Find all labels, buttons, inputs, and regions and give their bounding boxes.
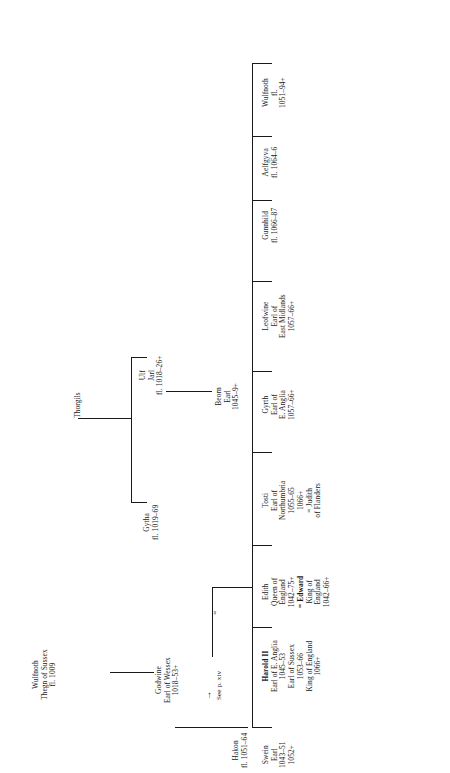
node-aelfgyva-line-1: fl. 1064–6 [271, 147, 280, 178]
connector-stub-tosti [252, 452, 272, 453]
node-edith: Edith Queen of England 1042–75+ = Edward… [262, 576, 332, 608]
connector-stub-swein [252, 727, 272, 728]
connector-sibling-spine [252, 63, 253, 728]
node-wulfnoth-son: Wulfnoth fl. 1051–94+ [262, 77, 288, 108]
node-wulfnoth-thegn: Wulfnoth Thegn of Sussex fl. 1009 [32, 649, 58, 700]
node-wulfnoth-thegn-line-2: fl. 1009 [49, 649, 58, 700]
node-hakon-line-1: fl. 1051–64 [241, 733, 250, 768]
node-edith-line-7: 1042–66+ [323, 576, 332, 608]
connector-stub-aelfgyva [252, 136, 272, 137]
node-gunnhild-line-1: fl. 1066–87 [271, 208, 280, 243]
marriage-symbol-godwine-gytha: = [211, 610, 220, 615]
connector-thorgils-stem [78, 418, 132, 419]
connector-marriage-to-children [212, 587, 252, 588]
node-wulfnoth-son-line-2: 1051–94+ [279, 77, 288, 108]
connector-stub-edith [252, 545, 272, 546]
node-leofwine: Leofwine Earl of East Midlands 1057–66+ [262, 294, 297, 338]
connector-harold-to-hakon [247, 727, 248, 728]
cross-reference-label: See p. xiv [215, 671, 223, 700]
node-gunnhild: Gunnhild fl. 1066–87 [262, 208, 279, 243]
node-harold: Harold II Earl of E. Anglia 1045–53 Earl… [262, 640, 323, 692]
node-godwine-line-2: 1018–53+ [172, 657, 181, 703]
node-leofwine-line-3: 1057–66+ [288, 294, 297, 338]
connector-stub-wulfnoth-son [252, 63, 272, 64]
node-swein-line-3: 1052+ [288, 741, 297, 768]
node-swein: Swein Earl 1043–51 1052+ [262, 741, 297, 768]
node-godwine: Godwine Earl of Wessex 1018–53+ [155, 657, 181, 703]
connector-ulf-to-beorn [166, 391, 212, 392]
connector-stub-harold [252, 627, 272, 628]
node-beorn-line-2: 1045–9+ [232, 383, 241, 410]
node-beorn: Beorn Earl 1045–9+ [215, 383, 241, 410]
connector-stub-gyrth [252, 371, 272, 372]
genealogy-chart: Thorgils Wulfnoth Thegn of Sussex fl. 10… [0, 0, 450, 773]
node-gyrth-line-3: 1057–66+ [288, 389, 297, 420]
cross-reference-see-page: See p. xiv [215, 671, 223, 700]
connector-stub-leofwine [252, 281, 272, 282]
node-hakon: Hakon fl. 1051–64 [232, 733, 249, 768]
connector-wulfnoth-to-godwine [110, 672, 154, 673]
connector-stub-gunnhild [252, 200, 272, 201]
node-harold-line-6: 1066+ [314, 640, 323, 692]
connector-hakon-line [175, 727, 247, 728]
node-ulf-line-2: fl. 1018–26+ [156, 356, 165, 395]
connector-thorgils-bracket [131, 357, 132, 503]
connector-to-gytha [131, 502, 147, 503]
connector-marriage-spine [212, 587, 213, 657]
node-tosti: Tosti Earl of Northumbria 1055–65 1066+ … [262, 481, 323, 520]
node-thorgils: Thorgils [74, 392, 83, 418]
node-tosti-line-6: of Flanders [314, 481, 323, 520]
arrow-icon: → [203, 691, 213, 700]
node-aelfgyva: Aelfgyva fl. 1064–6 [262, 147, 279, 178]
node-gytha-line-1: fl. 1019–69 [152, 505, 161, 540]
node-gyrth: Gyrth Earl of E. Anglia 1057–66+ [262, 389, 297, 420]
node-thorgils-line-0: Thorgils [74, 392, 83, 418]
node-gytha: Gytha fl. 1019–69 [143, 505, 160, 540]
node-ulf: Ulf Jarl fl. 1018–26+ [139, 356, 165, 395]
